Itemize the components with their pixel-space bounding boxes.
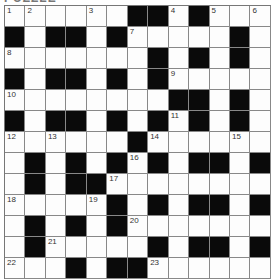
grid-cell[interactable]: [230, 195, 250, 216]
grid-cell[interactable]: 17: [107, 174, 127, 195]
grid-cell[interactable]: 12: [5, 132, 25, 153]
grid-cell[interactable]: [230, 258, 250, 279]
grid-cell[interactable]: [169, 258, 189, 279]
grid-cell[interactable]: [189, 132, 209, 153]
grid-cell[interactable]: [25, 132, 45, 153]
grid-cell[interactable]: [210, 132, 230, 153]
grid-cell[interactable]: [128, 111, 148, 132]
grid-cell[interactable]: [250, 27, 270, 48]
grid-cell[interactable]: [46, 216, 66, 237]
grid-cell[interactable]: [107, 90, 127, 111]
grid-cell[interactable]: [66, 6, 86, 27]
grid-cell[interactable]: [189, 216, 209, 237]
grid-cell[interactable]: [46, 258, 66, 279]
grid-cell[interactable]: [25, 90, 45, 111]
grid-cell[interactable]: [87, 153, 107, 174]
grid-cell[interactable]: [128, 174, 148, 195]
grid-cell[interactable]: [25, 195, 45, 216]
grid-cell[interactable]: [169, 132, 189, 153]
grid-cell[interactable]: 9: [169, 69, 189, 90]
grid-cell[interactable]: 3: [87, 6, 107, 27]
grid-cell[interactable]: 5: [210, 6, 230, 27]
grid-cell[interactable]: 20: [128, 216, 148, 237]
grid-cell[interactable]: [87, 27, 107, 48]
grid-cell[interactable]: [25, 48, 45, 69]
grid-cell[interactable]: [107, 237, 127, 258]
grid-cell[interactable]: [230, 69, 250, 90]
grid-cell[interactable]: [210, 216, 230, 237]
grid-cell[interactable]: [5, 237, 25, 258]
grid-cell[interactable]: 7: [128, 27, 148, 48]
grid-cell[interactable]: [210, 90, 230, 111]
grid-cell[interactable]: [25, 111, 45, 132]
grid-cell[interactable]: [107, 132, 127, 153]
grid-cell[interactable]: [46, 174, 66, 195]
grid-cell[interactable]: 19: [87, 195, 107, 216]
grid-cell[interactable]: [46, 48, 66, 69]
grid-cell[interactable]: [148, 27, 168, 48]
grid-cell[interactable]: [46, 6, 66, 27]
grid-cell[interactable]: [250, 111, 270, 132]
grid-cell[interactable]: [210, 111, 230, 132]
grid-cell[interactable]: [250, 258, 270, 279]
grid-cell[interactable]: [25, 258, 45, 279]
grid-cell[interactable]: [210, 174, 230, 195]
grid-cell[interactable]: [46, 153, 66, 174]
grid-cell[interactable]: [169, 237, 189, 258]
grid-cell[interactable]: [210, 69, 230, 90]
grid-cell[interactable]: [250, 48, 270, 69]
grid-cell[interactable]: [66, 195, 86, 216]
grid-cell[interactable]: 4: [169, 6, 189, 27]
grid-cell[interactable]: [66, 48, 86, 69]
grid-cell[interactable]: [25, 27, 45, 48]
grid-cell[interactable]: [5, 174, 25, 195]
grid-cell[interactable]: [128, 69, 148, 90]
grid-cell[interactable]: [189, 69, 209, 90]
grid-cell[interactable]: 18: [5, 195, 25, 216]
grid-cell[interactable]: [250, 90, 270, 111]
grid-cell[interactable]: 16: [128, 153, 148, 174]
grid-cell[interactable]: [66, 132, 86, 153]
grid-cell[interactable]: [230, 153, 250, 174]
grid-cell[interactable]: [169, 216, 189, 237]
grid-cell[interactable]: [189, 174, 209, 195]
grid-cell[interactable]: 22: [5, 258, 25, 279]
grid-cell[interactable]: [148, 90, 168, 111]
grid-cell[interactable]: [189, 258, 209, 279]
grid-cell[interactable]: [169, 153, 189, 174]
grid-cell[interactable]: [128, 237, 148, 258]
grid-cell[interactable]: [210, 48, 230, 69]
grid-cell[interactable]: [5, 216, 25, 237]
grid-cell[interactable]: 13: [46, 132, 66, 153]
grid-cell[interactable]: [230, 216, 250, 237]
grid-cell[interactable]: [230, 6, 250, 27]
grid-cell[interactable]: 14: [148, 132, 168, 153]
grid-cell[interactable]: 2: [25, 6, 45, 27]
grid-cell[interactable]: [87, 258, 107, 279]
grid-cell[interactable]: 11: [169, 111, 189, 132]
grid-cell[interactable]: 15: [230, 132, 250, 153]
grid-cell[interactable]: [66, 90, 86, 111]
grid-cell[interactable]: [128, 195, 148, 216]
grid-cell[interactable]: [107, 6, 127, 27]
grid-cell[interactable]: [87, 132, 107, 153]
grid-cell[interactable]: [46, 90, 66, 111]
grid-cell[interactable]: [210, 27, 230, 48]
grid-cell[interactable]: [46, 195, 66, 216]
grid-cell[interactable]: [169, 174, 189, 195]
grid-cell[interactable]: [87, 237, 107, 258]
grid-cell[interactable]: [87, 216, 107, 237]
grid-cell[interactable]: [189, 27, 209, 48]
grid-cell[interactable]: [87, 111, 107, 132]
grid-cell[interactable]: 6: [250, 6, 270, 27]
grid-cell[interactable]: [87, 90, 107, 111]
grid-cell[interactable]: [169, 48, 189, 69]
grid-cell[interactable]: 10: [5, 90, 25, 111]
grid-cell[interactable]: [87, 69, 107, 90]
grid-cell[interactable]: [87, 48, 107, 69]
grid-cell[interactable]: [250, 174, 270, 195]
grid-cell[interactable]: [5, 153, 25, 174]
grid-cell[interactable]: 8: [5, 48, 25, 69]
grid-cell[interactable]: [250, 69, 270, 90]
grid-cell[interactable]: 1: [5, 6, 25, 27]
